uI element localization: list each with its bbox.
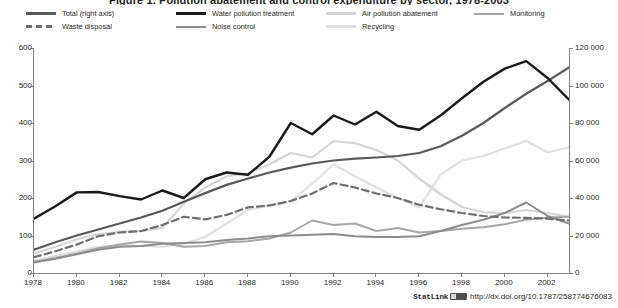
x-axis-tickmark bbox=[418, 274, 419, 277]
x-axis-tick-label: 2002 bbox=[527, 279, 567, 287]
x-axis-tickmark bbox=[375, 274, 376, 277]
legend-label-monitoring: Monitoring bbox=[510, 9, 545, 18]
y-axis-right-tickmark bbox=[570, 236, 573, 237]
y-axis-left-tick-label: 300 bbox=[0, 157, 32, 165]
x-axis-tickmark bbox=[461, 274, 462, 277]
x-axis-tickmark bbox=[119, 274, 120, 277]
statlink-badge-icon bbox=[450, 293, 467, 300]
y-axis-right-tickmark bbox=[570, 123, 573, 124]
statlink-url[interactable]: http://dx.doi.org/10.1787/258774676083 bbox=[470, 292, 612, 301]
legend-label-air_pollution_abatement: Air pollution abatement bbox=[362, 9, 438, 18]
series-line-water-pollution-treatment bbox=[34, 61, 569, 219]
y-axis-left-tick-label: 100 bbox=[0, 232, 32, 240]
x-axis-tickmark bbox=[333, 274, 334, 277]
legend-label-recycling: Recycling bbox=[362, 22, 394, 31]
y-axis-left-tickmark bbox=[30, 48, 33, 49]
x-axis-tick-label: 1978 bbox=[13, 279, 53, 287]
y-axis-left-tick-label: 400 bbox=[0, 119, 32, 127]
legend-label-water_pollution_treatment: Water pollution treatment bbox=[212, 9, 294, 18]
y-axis-right-tickmark bbox=[570, 198, 573, 199]
series-line-monitoring bbox=[34, 217, 569, 262]
x-axis-tick-label: 1982 bbox=[99, 279, 139, 287]
y-axis-left-tickmark bbox=[30, 161, 33, 162]
legend-item-noise_control[interactable]: Noise control bbox=[176, 22, 255, 31]
chart-lines bbox=[34, 48, 569, 273]
legend-label-noise_control: Noise control bbox=[212, 22, 255, 31]
statlink-footer: StatLinkhttp://dx.doi.org/10.1787/258774… bbox=[0, 292, 612, 301]
x-axis-tickmark bbox=[504, 274, 505, 277]
y-axis-right-tickmark bbox=[570, 273, 573, 274]
x-axis-tick-label: 1986 bbox=[184, 279, 224, 287]
y-axis-right-tick-label: 100 000 bbox=[575, 82, 604, 90]
y-axis-left-tick-label: 200 bbox=[0, 194, 32, 202]
x-axis-tick-label: 2000 bbox=[484, 279, 524, 287]
series-line-recycling bbox=[34, 141, 569, 261]
y-axis-left-tickmark bbox=[30, 123, 33, 124]
x-axis-tick-label: 1996 bbox=[398, 279, 438, 287]
legend-item-air_pollution_abatement[interactable]: Air pollution abatement bbox=[326, 9, 438, 18]
x-axis-tick-label: 1988 bbox=[227, 279, 267, 287]
legend-item-recycling[interactable]: Recycling bbox=[326, 22, 394, 31]
page-title: Figure 1. Pollution abatement and contro… bbox=[0, 0, 618, 5]
series-line-total-right-axis bbox=[34, 68, 569, 250]
legend-item-water_pollution_treatment[interactable]: Water pollution treatment bbox=[176, 9, 294, 18]
x-axis-tick-label: 1984 bbox=[141, 279, 181, 287]
x-axis-tick-label: 1980 bbox=[56, 279, 96, 287]
x-axis-tickmark bbox=[161, 274, 162, 277]
legend-label-waste_disposal: Waste disposal bbox=[62, 22, 112, 31]
plot-area bbox=[33, 48, 570, 274]
y-axis-right-tickmark bbox=[570, 86, 573, 87]
x-axis-tickmark bbox=[33, 274, 34, 277]
legend-item-monitoring[interactable]: Monitoring bbox=[474, 9, 545, 18]
y-axis-left-tick-label: 600 bbox=[0, 44, 32, 52]
statlink-label: StatLink bbox=[413, 293, 448, 301]
y-axis-right-tickmark bbox=[570, 161, 573, 162]
y-axis-right-tick-label: 120 000 bbox=[575, 44, 604, 52]
x-axis-tick-label: 1990 bbox=[270, 279, 310, 287]
chart-legend: Total (right axis)Waste disposalWater po… bbox=[26, 9, 606, 37]
legend-item-total[interactable]: Total (right axis) bbox=[26, 9, 114, 18]
y-axis-left-tickmark bbox=[30, 236, 33, 237]
y-axis-right-tick-label: 20 000 bbox=[575, 232, 599, 240]
x-axis-tickmark bbox=[547, 274, 548, 277]
y-axis-right-tick-label: 80 000 bbox=[575, 119, 599, 127]
y-axis-left-tick-label: 0 bbox=[0, 269, 32, 277]
y-axis-right-tick-label: 0 bbox=[575, 269, 579, 277]
figure-pollution-abatement-expenditure: Figure 1. Pollution abatement and contro… bbox=[0, 0, 618, 308]
x-axis-tick-label: 1998 bbox=[441, 279, 481, 287]
x-axis-tickmark bbox=[204, 274, 205, 277]
x-axis-tickmark bbox=[290, 274, 291, 277]
y-axis-right-tick-label: 60 000 bbox=[575, 157, 599, 165]
y-axis-left-tickmark bbox=[30, 198, 33, 199]
x-axis-tickmark bbox=[76, 274, 77, 277]
x-axis-tick-label: 1992 bbox=[313, 279, 353, 287]
legend-label-total: Total (right axis) bbox=[62, 9, 114, 18]
legend-item-waste_disposal[interactable]: Waste disposal bbox=[26, 22, 112, 31]
y-axis-right-tick-label: 40 000 bbox=[575, 194, 599, 202]
x-axis-tick-label: 1994 bbox=[355, 279, 395, 287]
x-axis-tickmark bbox=[247, 274, 248, 277]
y-axis-left-tick-label: 500 bbox=[0, 82, 32, 90]
y-axis-right-tickmark bbox=[570, 48, 573, 49]
y-axis-left-tickmark bbox=[30, 86, 33, 87]
